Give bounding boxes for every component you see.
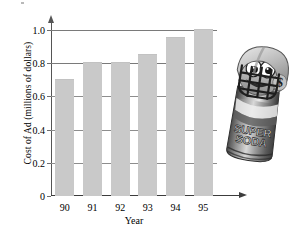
plot-area: 00.20.40.60.81.0909192939495 <box>51 30 217 196</box>
y-axis-tick <box>47 30 51 31</box>
y-axis-tick <box>47 196 51 197</box>
y-axis-tick-label: 0.2 <box>33 157 46 168</box>
y-axis-tick-label: 1.0 <box>33 25 46 36</box>
y-axis-title: Cost of Ad (millions of dollars) <box>23 13 33 193</box>
bar <box>194 29 213 196</box>
gridline <box>51 130 217 131</box>
bar <box>55 79 74 196</box>
y-axis-tick-label: 0.4 <box>33 124 46 135</box>
x-axis-title: Year <box>51 215 217 226</box>
y-axis-tick-label: 0.6 <box>33 91 46 102</box>
y-axis-tick-label: 0.8 <box>33 58 46 69</box>
scan-artifact-speck <box>21 2 24 4</box>
y-axis-arrowhead <box>48 15 54 23</box>
x-axis-tick-label: 95 <box>183 202 223 213</box>
gridline <box>51 163 217 164</box>
gridline <box>51 30 217 31</box>
y-axis-tick <box>47 63 51 64</box>
soda-can-mascot-illustration: SUPER SODA <box>218 41 292 166</box>
y-axis-tick <box>47 96 51 97</box>
bar-chart-figure: Cost of Ad (millions of dollars) 00.20.4… <box>0 0 296 236</box>
gridline <box>51 63 217 64</box>
bar <box>138 54 157 196</box>
y-axis-tick <box>47 130 51 131</box>
bar <box>166 37 185 196</box>
bar <box>83 62 102 196</box>
bar <box>111 62 130 196</box>
gridline <box>51 96 217 97</box>
y-axis-tick-label: 0 <box>40 191 45 202</box>
y-axis-tick <box>47 163 51 164</box>
x-axis-arrowhead <box>239 192 247 198</box>
